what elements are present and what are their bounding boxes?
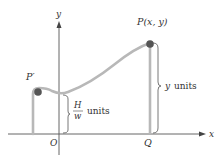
- fraction-numerator: H: [73, 100, 82, 110]
- y-axis: [57, 21, 62, 155]
- point-p-prime-label: P′: [25, 71, 35, 82]
- point-p-dot: [146, 40, 154, 48]
- cable-diagram: y x O P′ P(x, y) Q H w units y units y u…: [0, 0, 216, 163]
- cable-curve: [33, 43, 150, 134]
- point-p-prime-dot: [34, 88, 42, 96]
- point-p-label: P(x, y): [136, 16, 168, 27]
- x-axis-arrow-icon: [199, 132, 206, 137]
- right-brace-y-label: y: [164, 81, 171, 91]
- right-brace-units-label: units: [174, 81, 197, 91]
- left-brace: [63, 95, 70, 133]
- h-over-w-fraction: H w: [73, 100, 83, 121]
- fraction-denominator: w: [74, 111, 82, 121]
- left-brace-units-label: units: [87, 106, 110, 116]
- point-q-label: Q: [144, 137, 152, 148]
- y-axis-label: y: [55, 9, 62, 19]
- right-brace: [153, 43, 161, 133]
- x-axis-label: x: [209, 129, 214, 139]
- origin-label: O: [50, 138, 58, 148]
- x-axis: [8, 132, 206, 137]
- y-axis-arrow-icon: [57, 21, 62, 28]
